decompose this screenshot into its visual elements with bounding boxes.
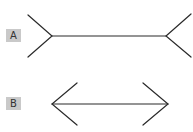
figure-b-arrowheads <box>52 83 168 125</box>
figure-a-fins-out <box>28 14 191 57</box>
figure-a-right-fin <box>166 14 191 57</box>
muller-lyer-diagram <box>0 0 193 132</box>
figure-a-left-fin <box>28 15 52 57</box>
